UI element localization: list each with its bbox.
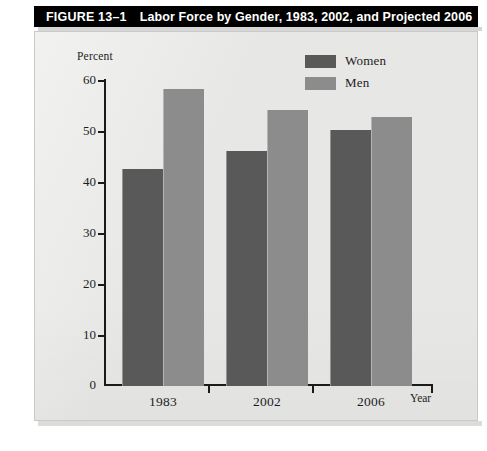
y-tick-mark-50 [98,131,106,133]
y-tick-label-0: 0 [60,377,96,393]
y-tick-mark-20 [98,284,106,286]
y-tick-label-60: 60 [60,72,96,88]
x-axis-line [104,384,433,386]
y-axis-tick-labels: 60 50 40 30 20 10 0 [52,0,96,390]
legend-swatch-men [305,77,336,90]
figure-title: Labor Force by Gender, 1983, 2002, and P… [140,10,473,24]
chart-legend: Women Men [305,52,386,96]
x-tick-mark-3 [431,386,433,393]
x-tick-mark-2 [312,386,314,393]
y-tick-label-40: 40 [60,174,96,190]
figure-title-bar: FIGURE 13–1 Labor Force by Gender, 1983,… [34,6,478,27]
y-tick-label-20: 20 [60,276,96,292]
x-tick-label-2002: 2002 [222,394,312,410]
figure-container: FIGURE 13–1 Labor Force by Gender, 1983,… [0,0,487,451]
y-tick-label-10: 10 [60,327,96,343]
legend-label-men: Men [345,75,369,91]
x-tick-mark-1 [208,386,210,393]
x-axis-title: Year [410,392,431,404]
y-tick-mark-40 [98,182,106,184]
y-tick-label-30: 30 [60,225,96,241]
x-tick-label-1983: 1983 [118,394,208,410]
legend-label-women: Women [345,53,386,69]
legend-item-women: Women [305,52,386,70]
panel-shadow [38,421,482,426]
panel-texture [35,32,477,420]
y-tick-mark-10 [98,335,106,337]
x-tick-label-2006: 2006 [326,394,416,410]
legend-swatch-women [305,55,336,68]
y-tick-label-50: 50 [60,123,96,139]
chart-panel [34,31,478,421]
y-tick-mark-60 [98,80,106,82]
legend-item-men: Men [305,74,386,92]
y-tick-mark-30 [98,233,106,235]
